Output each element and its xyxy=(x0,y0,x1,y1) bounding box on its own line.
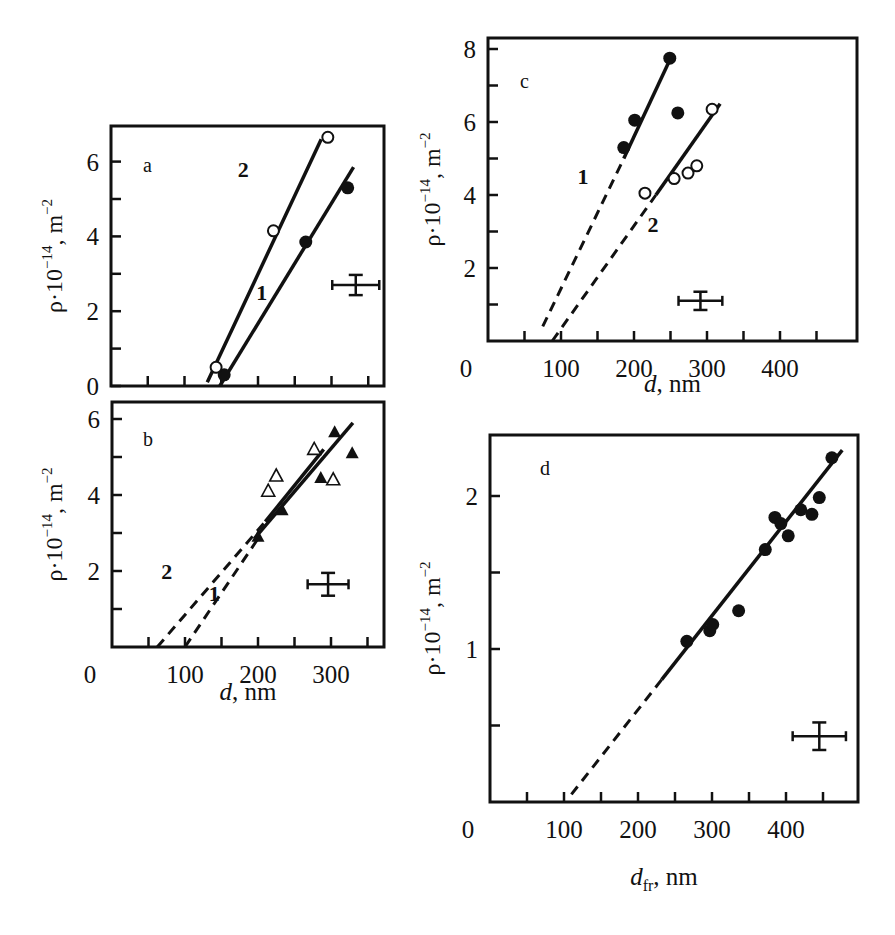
x-tick-label: 300 xyxy=(312,661,350,688)
panel-label: a xyxy=(143,154,152,176)
x-tick-label: 100 xyxy=(542,355,580,382)
data-point xyxy=(314,471,327,483)
panel-label: c xyxy=(520,70,529,92)
x-tick-label: 200 xyxy=(619,816,657,843)
fit-line xyxy=(265,449,323,521)
extrapolation-line xyxy=(552,195,656,341)
error-bar xyxy=(332,275,379,295)
x-tick-label: 0 xyxy=(460,355,473,382)
caption-strip xyxy=(0,920,895,935)
x-axis-label: d, nm xyxy=(644,370,702,397)
y-tick-label: 2 xyxy=(466,483,479,510)
fit-line xyxy=(207,139,321,382)
data-point xyxy=(825,451,838,464)
data-point xyxy=(732,604,745,617)
y-axis-label: ρ·10−14, m−2 xyxy=(417,132,445,246)
series-label: 2 xyxy=(161,559,172,584)
panel-label: d xyxy=(540,457,550,479)
x-tick-label: 400 xyxy=(767,816,805,843)
x-tick-label: 100 xyxy=(166,661,204,688)
data-point xyxy=(262,484,275,496)
data-point xyxy=(680,635,693,648)
fit-line xyxy=(220,167,354,386)
panel-b-chart: 2460100200300d, nmρ·10−14, m−2b12 xyxy=(39,402,384,705)
y-tick-label: 1 xyxy=(466,636,479,663)
y-tick-label: 4 xyxy=(88,482,101,509)
data-point xyxy=(759,543,772,556)
y-tick-label: 6 xyxy=(88,406,101,433)
data-point xyxy=(322,132,333,143)
error-bar xyxy=(308,573,349,596)
data-point xyxy=(669,173,680,184)
data-point xyxy=(782,529,795,542)
data-point xyxy=(268,225,279,236)
data-point xyxy=(813,491,826,504)
panel-a-chart: 0246ρ·10−14, m−2a12 xyxy=(39,126,384,400)
extrapolation-line xyxy=(571,680,661,795)
panel-d-chart: 120100200300400dfr, nmρ·10−14, m−2d xyxy=(417,435,858,894)
y-tick-label: 4 xyxy=(464,182,477,209)
y-axis-label: ρ·10−14, m−2 xyxy=(417,561,445,675)
y-axis-label: ρ·10−14, m−2 xyxy=(39,199,67,313)
data-point xyxy=(211,362,222,373)
data-point xyxy=(805,508,818,521)
x-tick-label: 100 xyxy=(545,816,583,843)
data-point xyxy=(706,618,719,631)
series-label: 1 xyxy=(577,164,588,189)
error-bar xyxy=(679,292,723,310)
data-point xyxy=(327,473,340,485)
data-point xyxy=(639,188,650,199)
data-point xyxy=(299,236,312,249)
y-tick-label: 2 xyxy=(87,298,100,325)
x-tick-label: 400 xyxy=(761,355,799,382)
data-point xyxy=(341,181,354,194)
x-tick-label: 0 xyxy=(84,661,97,688)
data-point xyxy=(346,446,359,458)
fit-line xyxy=(624,60,670,159)
y-tick-label: 6 xyxy=(87,149,100,176)
y-tick-label: 2 xyxy=(464,255,477,282)
data-point xyxy=(671,106,684,119)
data-point xyxy=(707,104,718,115)
panel-c-chart: 24680100200300400d, nmρ·10−14, m−2c12 xyxy=(417,36,857,397)
data-point xyxy=(691,160,702,171)
series-label: 2 xyxy=(238,157,249,182)
data-point xyxy=(794,503,807,516)
panel-label: b xyxy=(143,428,153,450)
x-tick-label: 300 xyxy=(693,816,731,843)
data-point xyxy=(663,52,676,65)
plot-frame xyxy=(488,38,857,341)
series-label: 1 xyxy=(209,581,220,606)
series-label: 1 xyxy=(256,280,267,305)
error-bar xyxy=(793,722,846,750)
x-axis-label: d, nm xyxy=(220,678,278,705)
y-tick-label: 0 xyxy=(87,373,100,400)
data-point xyxy=(270,469,283,481)
data-point xyxy=(617,141,630,154)
x-tick-label: 0 xyxy=(462,816,475,843)
data-point xyxy=(628,114,641,127)
y-tick-label: 6 xyxy=(464,109,477,136)
figure: 0246ρ·10−14, m−2a12 2460100200300d, nmρ·… xyxy=(0,0,895,935)
data-point xyxy=(328,425,341,437)
x-axis-label: dfr, nm xyxy=(630,863,698,894)
y-tick-label: 2 xyxy=(88,558,101,585)
data-point xyxy=(308,442,321,454)
y-tick-label: 4 xyxy=(87,223,100,250)
data-point xyxy=(774,517,787,530)
extrapolation-line xyxy=(185,539,258,647)
fit-line xyxy=(656,104,720,195)
plot-frame xyxy=(490,435,858,802)
series-label: 2 xyxy=(647,212,658,237)
y-tick-label: 8 xyxy=(464,36,477,63)
y-axis-label: ρ·10−14, m−2 xyxy=(39,467,67,581)
